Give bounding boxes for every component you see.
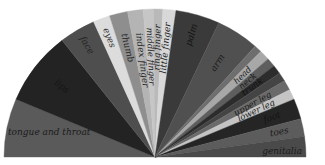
- segment-label-tongue-and-throat: tongue and throat: [8, 127, 91, 137]
- segment-label-genitalia: genitalia: [262, 146, 302, 156]
- homunculus-fan-diagram: tongue and throatlipsfaceeyesthumbindex …: [0, 0, 325, 165]
